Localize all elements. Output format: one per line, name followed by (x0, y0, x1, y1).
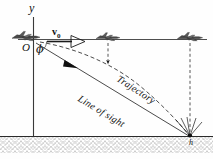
physics-diagram: y O ϕ v0 Trajectory Line of sight h (0, 0, 213, 159)
velocity-label: v0 (52, 27, 61, 40)
target-height-label: h (189, 139, 193, 147)
impact-point-dot (188, 133, 192, 137)
y-axis-label: y (29, 2, 34, 14)
ground-hatch (0, 137, 213, 153)
angle-phi-label: ϕ (36, 44, 44, 55)
velocity-subscript: 0 (57, 32, 61, 40)
diagram-canvas (0, 0, 213, 159)
origin-label: O (22, 42, 30, 53)
line-of-sight-arrowhead (63, 60, 78, 68)
impact-point-icon (176, 117, 202, 136)
